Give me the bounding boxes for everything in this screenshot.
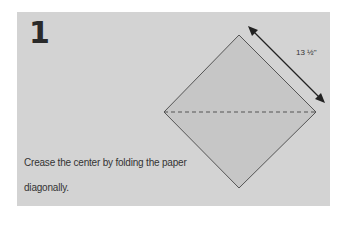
dimension-label: 13 ½"	[296, 48, 317, 57]
instruction-text: Crease the center by folding the paper d…	[24, 150, 204, 200]
